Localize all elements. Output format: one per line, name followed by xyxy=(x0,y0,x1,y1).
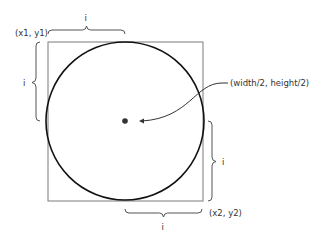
top-left-corner-label: (x1, y1) xyxy=(15,28,48,38)
top-brace-label: i xyxy=(85,13,87,23)
center-arrow xyxy=(142,83,228,121)
right-brace xyxy=(208,121,216,201)
bottom-brace-label: i xyxy=(162,222,164,232)
left-brace-label: i xyxy=(23,78,25,88)
right-brace-label: i xyxy=(222,157,224,167)
arrowhead-icon xyxy=(139,119,144,124)
bottom-brace xyxy=(125,209,202,217)
center-dot xyxy=(122,118,128,124)
ellipse-diagram: (x1, y1) (x2, y2) (width/2, height/2) i … xyxy=(0,0,324,241)
bottom-right-corner-label: (x2, y2) xyxy=(209,208,242,218)
left-brace xyxy=(32,42,40,121)
center-label: (width/2, height/2) xyxy=(230,78,309,88)
top-brace xyxy=(48,26,125,34)
